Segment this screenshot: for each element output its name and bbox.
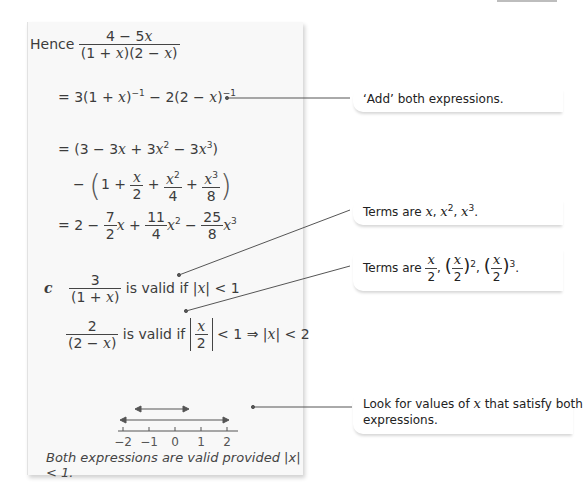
note-terms-x: Terms are x, x2, x3.	[353, 199, 563, 225]
note-satisfy-both: Look for values of x that satisfy both e…	[353, 392, 573, 434]
note-add-expressions: ‘Add’ both expressions.	[353, 88, 563, 112]
note-terms-x-over-2: Terms are x2, (x2)2, (x2)3.	[353, 248, 563, 291]
